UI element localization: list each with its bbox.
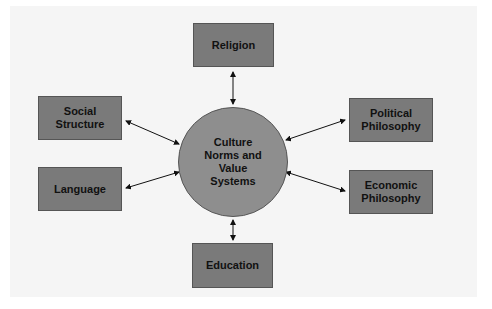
node-political-philosophy: Political Philosophy xyxy=(349,98,433,142)
node-education: Education xyxy=(192,243,273,288)
node-social-structure: Social Structure xyxy=(38,96,122,140)
node-language: Language xyxy=(38,167,122,211)
arrow-political-philosophy xyxy=(286,120,345,140)
arrow-language xyxy=(126,172,179,188)
arrow-social-structure xyxy=(126,121,179,144)
diagram-canvas: Culture Norms and Value Systems Religion… xyxy=(0,0,492,309)
node-economic-philosophy: Economic Philosophy xyxy=(349,170,433,214)
node-religion: Religion xyxy=(193,23,274,67)
center-node-culture: Culture Norms and Value Systems xyxy=(178,107,288,217)
arrow-economic-philosophy xyxy=(286,172,345,191)
